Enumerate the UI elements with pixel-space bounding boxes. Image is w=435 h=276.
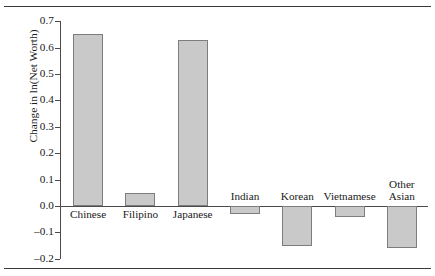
y-tick-label: 0.7 <box>40 15 54 26</box>
bar <box>387 206 417 248</box>
y-tick-mark <box>55 74 60 75</box>
bar <box>178 40 208 206</box>
y-tick-label: 0.5 <box>40 68 54 79</box>
y-tick-label: 0.3 <box>40 121 54 132</box>
bar <box>335 206 365 217</box>
bar-chart-figure: Change in ln(Net Worth) 0.70.60.50.40.30… <box>0 0 435 276</box>
y-tick-mark <box>55 180 60 181</box>
y-tick-label: 0.2 <box>40 147 54 158</box>
y-tick-mark <box>55 232 60 233</box>
y-tick-mark <box>55 21 60 22</box>
y-tick-mark <box>55 206 60 207</box>
category-label: Japanese <box>133 208 253 220</box>
y-tick-label: 0.6 <box>40 42 54 53</box>
y-tick-mark <box>55 127 60 128</box>
y-tick-mark <box>55 100 60 101</box>
category-label-line: Other <box>342 178 435 190</box>
y-axis-line <box>60 21 61 259</box>
y-tick-label: –0.1 <box>34 226 54 237</box>
y-tick-mark <box>55 259 60 260</box>
y-axis-title: Change in ln(Net Worth) <box>27 6 39 166</box>
bar <box>125 193 155 206</box>
bar <box>282 206 312 246</box>
category-label: OtherAsian <box>342 178 435 202</box>
y-tick-mark <box>55 153 60 154</box>
bar <box>73 34 103 206</box>
y-tick-label: 0.4 <box>40 94 54 105</box>
y-tick-label: –0.2 <box>34 253 54 264</box>
top-rule <box>4 6 431 7</box>
y-tick-label: 0.1 <box>40 174 54 185</box>
y-tick-mark <box>55 48 60 49</box>
bottom-rule <box>4 268 431 269</box>
category-label-line: Asian <box>342 190 435 202</box>
